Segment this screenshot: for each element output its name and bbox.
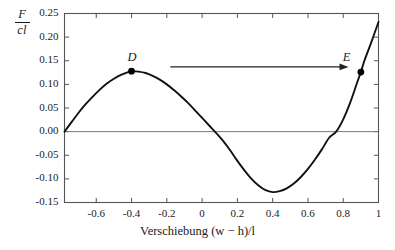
x-tick-label-0: -0.6 — [76, 207, 116, 219]
x-tick-label-6: 0.6 — [288, 207, 328, 219]
x-axis-title: Verschiebung (w − h)/l — [0, 224, 395, 239]
y-tick-label-5: 0.00 — [39, 124, 58, 136]
x-tick-label-3: 0 — [182, 207, 222, 219]
x-tick-label-4: 0.2 — [217, 207, 257, 219]
y-tick-label-2: 0.15 — [39, 53, 58, 65]
y-tick-label-7: -0.10 — [36, 171, 59, 183]
x-tick-label-8: 1 — [359, 207, 395, 219]
point-label-d: D — [128, 50, 137, 65]
data-point-e — [357, 69, 364, 76]
x-tick-label-2: -0.2 — [147, 207, 187, 219]
y-tick-label-6: -0.05 — [36, 148, 59, 160]
y-axis-label-numerator: F — [9, 8, 35, 21]
x-tick-label-1: -0.4 — [112, 207, 152, 219]
y-tick-label-4: 0.05 — [39, 101, 58, 113]
y-tick-label-3: 0.10 — [39, 77, 58, 89]
y-tick-label-8: -0.15 — [36, 195, 59, 207]
data-point-d — [128, 68, 135, 75]
figure-chart-force-displacement: F cl 0.250.200.150.100.050.00-0.05-0.10-… — [0, 0, 395, 250]
x-axis-title-text: Verschiebung (w − h)/l — [140, 224, 255, 238]
y-tick-label-1: 0.20 — [39, 30, 58, 42]
x-tick-label-5: 0.4 — [253, 207, 293, 219]
y-axis-label: F cl — [9, 8, 35, 37]
x-tick-label-7: 0.8 — [323, 207, 363, 219]
y-tick-label-0: 0.25 — [39, 6, 58, 18]
point-label-e: E — [343, 50, 351, 65]
y-axis-label-denominator: cl — [9, 24, 35, 37]
